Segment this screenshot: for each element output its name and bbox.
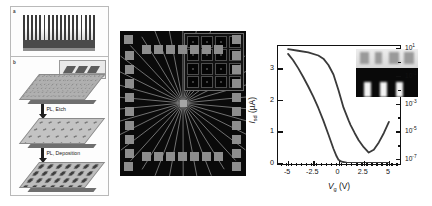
bond-pad	[232, 107, 241, 116]
x-axis-minor-tick	[371, 163, 372, 166]
bond-pad	[214, 152, 223, 161]
bond-pad	[125, 135, 134, 144]
inset-upper-region	[356, 49, 418, 68]
panel-a: a	[11, 7, 108, 57]
right-y-axis-tick-label: 10-5	[405, 126, 417, 134]
y-axis-label: Isd (µA)	[247, 97, 258, 124]
y-axis-tick-label: 1	[263, 126, 274, 135]
right-y-axis-tick	[396, 48, 401, 49]
center-device-icon	[180, 100, 187, 107]
x-axis-minor-tick	[386, 163, 387, 166]
right-y-axis-tick	[396, 104, 401, 105]
bond-pad	[154, 152, 163, 161]
bond-pad	[202, 152, 211, 161]
bond-pad	[178, 152, 187, 161]
micrograph-canvas	[120, 31, 246, 176]
right-y-axis-tick-label: 10-3	[405, 98, 417, 106]
slab-step-1	[19, 74, 105, 100]
inset-ridge	[87, 66, 100, 73]
right-y-axis-tick	[396, 159, 401, 160]
plot-axes	[277, 45, 401, 165]
right-y-axis-tick	[396, 76, 401, 77]
alignment-mark	[124, 35, 133, 44]
left-schematic-column: a b PL, Etch	[10, 6, 109, 196]
pillar-array	[23, 15, 95, 40]
inset-well-cell	[187, 63, 199, 75]
alignment-mark	[232, 162, 241, 171]
x-axis-minor-tick	[326, 163, 327, 166]
x-axis-minor-tick	[296, 163, 297, 166]
x-axis-minor-tick	[346, 163, 347, 166]
x-axis-minor-tick	[301, 163, 302, 166]
bond-pad	[232, 51, 241, 60]
x-axis-label: Vg (V)	[328, 181, 350, 192]
x-axis-minor-tick	[361, 163, 362, 166]
x-axis-minor-tick	[321, 163, 322, 166]
panel-b: b PL, Etch PL, Deposition	[11, 58, 108, 195]
x-axis-minor-tick	[396, 163, 397, 166]
y-axis-tick	[278, 100, 283, 101]
right-y-axis-minor-tick	[398, 62, 401, 63]
y-axis-tick-label: 3	[263, 63, 274, 72]
down-arrow-icon	[41, 104, 44, 114]
bond-pad	[125, 79, 134, 88]
right-y-axis-minor-tick	[398, 117, 401, 118]
bond-pad	[125, 93, 134, 102]
bond-pad	[166, 152, 175, 161]
bond-pad	[232, 79, 241, 88]
slab-step-2	[19, 118, 105, 144]
x-axis-minor-tick	[341, 163, 342, 166]
process-step-1: PL, Etch	[41, 104, 66, 114]
y-axis-tick-label: 0	[263, 158, 274, 167]
inset-well-cell	[187, 76, 199, 88]
figure-root: a b PL, Etch	[0, 0, 432, 206]
x-axis-tick	[288, 161, 289, 166]
inset-well-cell	[201, 76, 213, 88]
inset-well-cell	[215, 63, 227, 75]
x-axis-minor-tick	[286, 163, 287, 166]
slab-edge	[27, 188, 96, 192]
bond-pad	[190, 152, 199, 161]
inset-well-cell	[215, 76, 227, 88]
x-axis-minor-tick	[311, 163, 312, 166]
y-axis-tick	[278, 163, 283, 164]
bond-pad	[125, 51, 134, 60]
x-axis-tick-label: -5	[284, 167, 290, 176]
process-step-2: PL, Deposition	[41, 148, 80, 158]
alignment-mark	[232, 35, 241, 44]
right-y-axis-tick-label: 101	[405, 43, 415, 51]
x-axis-tick	[313, 161, 314, 166]
bond-pad	[166, 45, 175, 54]
panel-b-label: b	[13, 60, 16, 65]
x-axis-minor-tick	[316, 163, 317, 166]
bond-pad	[232, 149, 241, 158]
x-axis-minor-tick	[331, 163, 332, 166]
y-axis-tick-label: 2	[263, 94, 274, 103]
inset-well-cell	[201, 63, 213, 75]
x-axis-tick	[364, 161, 365, 166]
bond-pad	[125, 107, 134, 116]
x-axis-tick	[389, 161, 390, 166]
x-axis-minor-tick	[366, 163, 367, 166]
x-axis-tick-label: 5	[386, 167, 390, 176]
x-axis-minor-tick	[376, 163, 377, 166]
right-y-axis-minor-tick	[398, 145, 401, 146]
bond-pad	[232, 121, 241, 130]
bond-pad	[142, 152, 151, 161]
x-axis-minor-tick	[391, 163, 392, 166]
right-y-axis-tick-label: 10-7	[405, 154, 417, 162]
process-step-2-label: PL, Deposition	[46, 150, 80, 156]
bond-pad	[232, 93, 241, 102]
transfer-characteristic-plot: Vg (V) Isd (µA) -5-2.502.55012310110-110…	[255, 20, 432, 206]
x-axis-minor-tick	[291, 163, 292, 166]
x-axis-tick-label: 2.5	[358, 167, 368, 176]
bond-pad	[232, 65, 241, 74]
x-axis-minor-tick	[356, 163, 357, 166]
bond-pad	[125, 65, 134, 74]
right-y-axis-minor-tick	[398, 90, 401, 91]
y-axis-tick	[278, 68, 283, 69]
y-axis-tick	[278, 131, 283, 132]
x-axis-tick-label: 0	[336, 167, 340, 176]
device-micrograph	[120, 31, 246, 176]
bond-pad	[232, 135, 241, 144]
